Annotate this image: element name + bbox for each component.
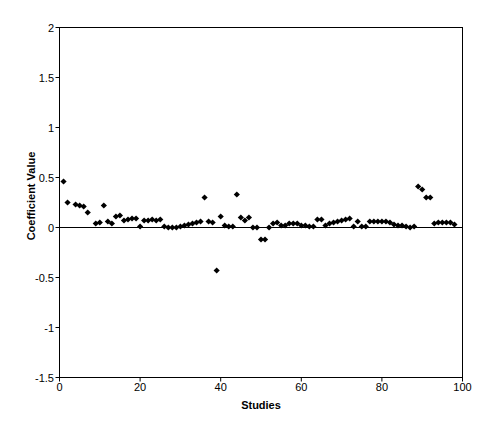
plot-frame-rect — [60, 28, 463, 378]
scatter-chart-figure: Coefficient Value 21.510.50-0.5-1-1.5 02… — [0, 0, 488, 431]
plot-area — [0, 0, 488, 431]
plot-frame — [60, 28, 463, 378]
